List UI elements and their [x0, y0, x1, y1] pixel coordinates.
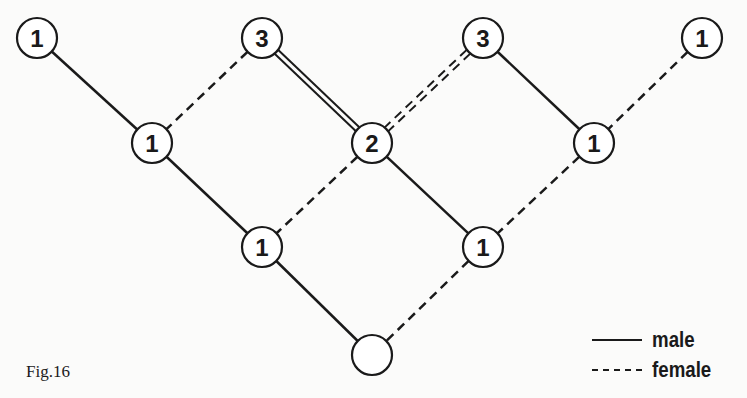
edge-male [52, 51, 137, 129]
node-i: 1 [463, 227, 503, 267]
edge-male [278, 50, 359, 127]
legend-label-male: male [652, 327, 695, 353]
edges-layer [52, 50, 688, 341]
dashed-line-icon [592, 369, 642, 371]
node-label: 1 [30, 25, 43, 52]
node-c: 3 [463, 18, 503, 58]
edge-male [276, 261, 357, 341]
edge-female [386, 261, 468, 341]
node-h: 1 [242, 227, 282, 267]
edge-male [167, 157, 248, 234]
legend-label-female: female [652, 357, 711, 383]
edge-male [387, 157, 469, 234]
node-e: 1 [132, 123, 172, 163]
node-label: 1 [255, 234, 268, 261]
edge-female [166, 52, 247, 129]
nodes-layer: 133112111 [17, 18, 722, 375]
node-d: 1 [682, 18, 722, 58]
edge-female [498, 157, 580, 234]
node-label: 3 [255, 25, 268, 52]
node-b: 3 [242, 18, 282, 58]
node-f: 2 [352, 123, 392, 163]
legend: male female [592, 325, 722, 385]
figure-caption: Fig.16 [26, 362, 70, 382]
node-label: 3 [476, 25, 489, 52]
edge-male [498, 52, 580, 130]
node-label: 1 [587, 130, 600, 157]
node-label: 1 [145, 130, 158, 157]
edge-female [385, 50, 467, 128]
edge-female [608, 52, 687, 129]
solid-line-icon [592, 339, 642, 341]
edge-female [277, 157, 358, 234]
node-label: 1 [695, 25, 708, 52]
edge-female [388, 54, 470, 132]
legend-item-male: male [592, 325, 722, 355]
node-circle [352, 335, 392, 375]
node-label: 1 [476, 234, 489, 261]
node-j [352, 335, 392, 375]
node-a: 1 [17, 18, 57, 58]
node-g: 1 [574, 123, 614, 163]
edge-male [275, 54, 356, 131]
legend-item-female: female [592, 355, 722, 385]
node-label: 2 [365, 130, 378, 157]
